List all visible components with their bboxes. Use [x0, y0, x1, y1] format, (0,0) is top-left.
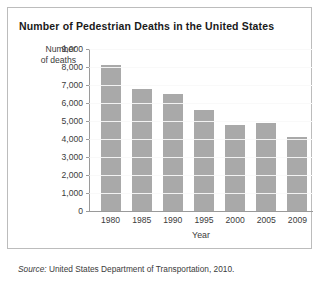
y-axis-tick [86, 85, 89, 86]
plot-area: 9,0008,0007,0006,0005,0004,0003,0002,000… [89, 49, 313, 211]
y-axis-tick-label: 5,000 [61, 116, 83, 126]
y-axis-tick [86, 139, 89, 140]
y-axis-tick-label: 3,000 [61, 152, 83, 162]
pedestrian-deaths-figure: Number of Pedestrian Deaths in the Unite… [0, 0, 324, 290]
gridline-over-bar [90, 49, 313, 50]
y-axis-tick [86, 49, 89, 50]
x-axis-tick-label: 1985 [132, 215, 151, 225]
y-axis-tick [86, 121, 89, 122]
source-note: Source: United States Department of Tran… [18, 264, 234, 274]
gridline-over-bar [90, 175, 313, 176]
source-label: Source: [18, 264, 47, 274]
gridline-over-bar [90, 193, 313, 194]
y-axis-tick [86, 67, 89, 68]
chart-panel: Number of Pedestrian Deaths in the Unite… [7, 7, 312, 249]
y-axis-tick-label: 8,000 [61, 62, 83, 72]
y-axis-tick [86, 103, 89, 104]
x-axis-tick-label: 2005 [257, 215, 276, 225]
y-axis-tick-label: 9,000 [61, 44, 83, 54]
chart-title: Number of Pedestrian Deaths in the Unite… [19, 20, 274, 32]
bar [256, 123, 276, 211]
bar [225, 125, 245, 211]
x-axis-tick-label: 2000 [226, 215, 245, 225]
y-axis-tick-label: 6,000 [61, 98, 83, 108]
x-axis-tick-label: 2009 [288, 215, 307, 225]
y-axis-line [89, 49, 90, 211]
bar [194, 110, 214, 211]
x-axis-tick-label: 1990 [163, 215, 182, 225]
y-axis-tick [86, 211, 89, 212]
y-axis-tick-label: 2,000 [61, 170, 83, 180]
y-axis-tick [86, 175, 89, 176]
y-axis-tick [86, 193, 89, 194]
gridline-over-bar [90, 139, 313, 140]
y-axis-tick-label: 7,000 [61, 80, 83, 90]
x-axis-tick-label: 1995 [194, 215, 213, 225]
gridline-over-bar [90, 85, 313, 86]
gridline-over-bar [90, 157, 313, 158]
x-axis-title: Year [89, 230, 313, 240]
gridline-over-bar [90, 103, 313, 104]
x-axis-tick-label: 1980 [101, 215, 120, 225]
gridline-over-bar [90, 67, 313, 68]
gridline-over-bar [90, 121, 313, 122]
source-text: United States Department of Transportati… [49, 264, 234, 274]
y-axis-tick-label: 1,000 [61, 188, 83, 198]
gridline [89, 211, 313, 212]
y-axis-tick-label: 4,000 [61, 134, 83, 144]
y-axis-tick [86, 157, 89, 158]
y-axis-tick-label: 0 [78, 206, 83, 216]
